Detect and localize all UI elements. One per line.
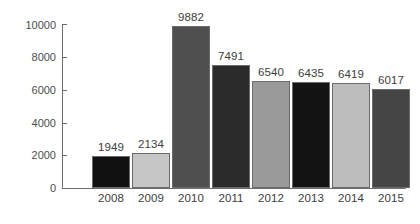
y-tick-label-10000: 10000 [0, 19, 56, 31]
bar-value-2009: 2134 [128, 138, 174, 150]
bar-2012 [252, 81, 290, 188]
bar-2011 [212, 65, 250, 188]
x-tick-label-2015: 2015 [368, 192, 414, 204]
bar-2010 [172, 26, 210, 188]
bar-value-2015: 6017 [368, 74, 414, 86]
y-tick-label-6000: 6000 [0, 84, 56, 96]
bar-value-2011: 7491 [208, 50, 254, 62]
y-tick-label-2000: 2000 [0, 149, 56, 161]
bar-chart: 10000 8000 6000 4000 2000 0 1949 2134 98… [0, 0, 420, 224]
bar-value-2010: 9882 [168, 11, 214, 23]
bar-2014 [332, 83, 370, 188]
bar-2009 [132, 153, 170, 188]
y-tick-label-4000: 4000 [0, 117, 56, 129]
x-axis-line [62, 188, 406, 189]
bar-2008 [92, 156, 130, 188]
plot-area [62, 24, 405, 188]
bar-2013 [292, 82, 330, 188]
bar-2015 [372, 89, 410, 188]
y-tick-label-8000: 8000 [0, 51, 56, 63]
y-tick-label-0: 0 [0, 182, 56, 194]
